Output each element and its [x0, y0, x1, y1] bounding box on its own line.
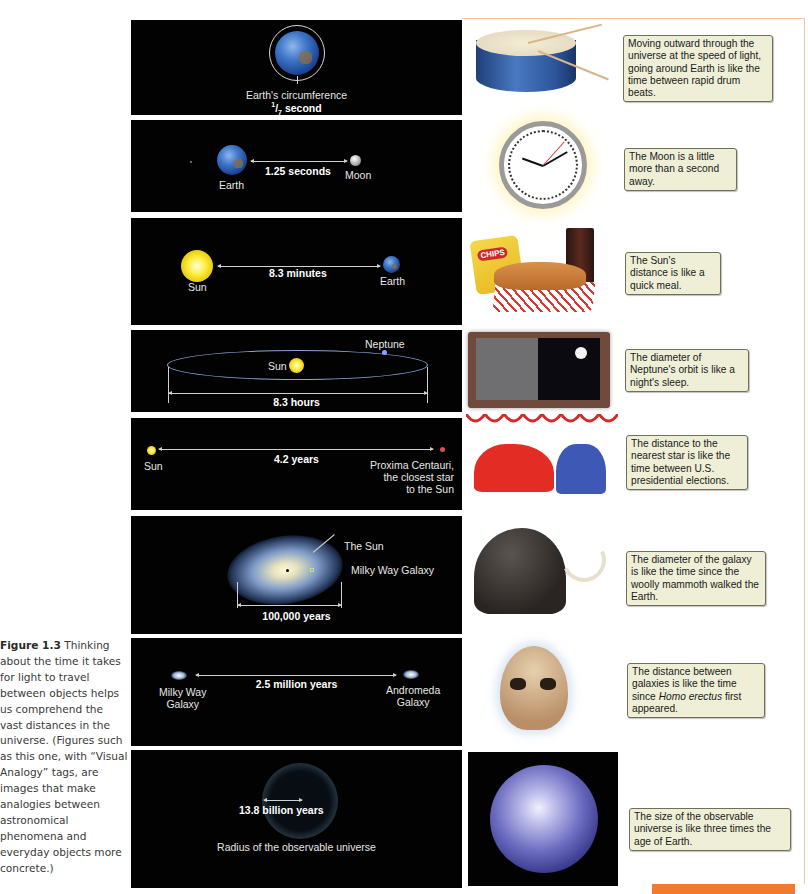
- sun-position-marker: [310, 568, 314, 572]
- earth-circumference-label: Earth's circumference: [131, 89, 462, 101]
- frame-top-border: [462, 18, 805, 19]
- figure-caption-text: Thinking about the time it takes for lig…: [0, 639, 127, 874]
- galaxy-diameter-arrow: [238, 605, 341, 606]
- callout-homo-erectus: The distance between galaxies is like th…: [627, 663, 765, 718]
- orbit-diameter-arrow: [169, 393, 427, 394]
- sun-icon: [289, 358, 304, 373]
- panel-andromeda: Milky Way Galaxy 2.5 million years Andro…: [131, 638, 462, 746]
- galaxy-diameter-time: 100,000 years: [131, 610, 462, 622]
- earth-photo-icon: [468, 752, 618, 886]
- sun-label: Sun: [188, 281, 207, 293]
- moon-label: Moon: [345, 169, 371, 181]
- proxima-centauri-icon: [440, 447, 445, 452]
- universe-radius-time: 13.8 billion years: [239, 804, 324, 816]
- callout-earth-age: The size of the observable universe is l…: [629, 808, 791, 851]
- panel-observable-universe: 13.8 billion years Radius of the observa…: [131, 750, 462, 888]
- figure-label: Figure 1.3: [0, 639, 61, 651]
- neptune-label: Neptune: [365, 338, 405, 350]
- figure-caption: Figure 1.3 Thinking about the time it ta…: [0, 638, 128, 877]
- galaxy-center-dot: [286, 569, 289, 572]
- andromeda-galaxy-icon: [403, 670, 419, 679]
- neptune-icon: [382, 350, 387, 355]
- bunting-icon: [466, 414, 618, 428]
- observable-universe-label: Radius of the observable universe: [131, 841, 462, 853]
- panel-nearest-star: Sun 4.2 years Proxima Centauri, the clos…: [131, 418, 462, 510]
- panel-neptune-orbit: Neptune Sun 8.3 hours: [131, 330, 462, 412]
- frame-right-border: [804, 18, 805, 884]
- callout-meal: The Sun's distance is like a quick meal.: [625, 252, 721, 295]
- distance-arrow: [159, 449, 433, 450]
- earth-icon: [217, 145, 247, 175]
- frame-bottom-accent-bar: [652, 884, 795, 894]
- panel-earth-circumference: Earth's circumference 1/7 second: [131, 20, 462, 115]
- milky-way-galaxy-label: Milky Way Galaxy: [351, 564, 434, 576]
- callout-clock: The Moon is a little more than a second …: [624, 148, 737, 191]
- star-dot-icon: [190, 161, 192, 163]
- radius-arrow: [264, 800, 302, 801]
- sun-earth-time: 8.3 minutes: [269, 267, 327, 279]
- sun-label: Sun: [144, 460, 163, 472]
- callout-elections: The distance to the nearest star is like…: [626, 435, 748, 490]
- distance-arrow: [196, 675, 396, 676]
- earth-label: Earth: [380, 275, 405, 287]
- earth-moon-time: 1.25 seconds: [265, 165, 331, 177]
- earth-icon: [383, 256, 400, 273]
- panel-sun-earth: Sun 8.3 minutes Earth: [131, 218, 462, 325]
- earth-label: Earth: [219, 179, 244, 191]
- nearest-star-time: 4.2 years: [274, 453, 319, 465]
- callout-window: The diameter of Neptune's orbit is like …: [625, 349, 749, 392]
- callout-drum: Moving outward through the universe at t…: [623, 35, 773, 102]
- earth-circumference-time: 1/7 second: [131, 101, 462, 115]
- distance-arrow: [251, 161, 347, 162]
- the-sun-label: The Sun: [344, 540, 384, 552]
- proxima-centauri-label: Proxima Centauri, the closest star to th…: [370, 459, 454, 495]
- panel-earth-moon: Earth 1.25 seconds Moon: [131, 120, 462, 212]
- earth-icon: [275, 31, 319, 75]
- moon-icon: [350, 155, 361, 166]
- sun-label: Sun: [268, 360, 287, 372]
- night-window-icon: [468, 332, 610, 408]
- neptune-orbit-time: 8.3 hours: [131, 396, 462, 408]
- milky-way-galaxy-icon: [223, 528, 347, 611]
- sun-icon: [147, 446, 156, 455]
- circumference-marker: [297, 76, 298, 84]
- panel-milky-way: The Sun Milky Way Galaxy 100,000 years: [131, 516, 462, 634]
- sun-icon: [181, 250, 213, 282]
- callout-mammoth: The diameter of the galaxy is like the t…: [626, 551, 766, 606]
- andromeda-galaxy-label: Andromeda Galaxy: [386, 684, 440, 708]
